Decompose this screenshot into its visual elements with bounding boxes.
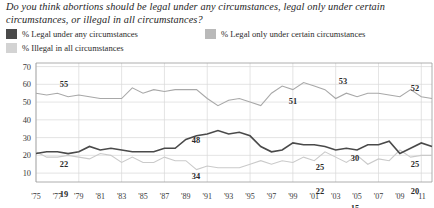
chart-card: Do you think abortions should be legal u… [0,0,434,208]
data-point-label: 55 [60,80,68,89]
chart-gridlines [36,63,432,182]
x-axis-tick-label: '97 [267,192,276,201]
data-point-label: 53 [339,77,347,86]
legend-item-illegal-all: % Illegal in all circumstances [6,43,124,53]
data-point-label: 25 [411,160,419,169]
x-axis-tick-label: '85 [138,192,147,201]
y-axis-tick-label: 60 [23,80,31,89]
data-point-label: 15 [351,204,359,208]
x-axis-tick-label: '87 [160,192,169,201]
x-axis-tick-label: '03 [331,192,340,201]
y-axis-tick-label: 70 [23,63,31,72]
legend-item-legal-certain: % Legal only under certain circumstances [205,29,365,39]
chart-plot-area: 10203040506070 '75'77'79'81'83'85'87'89'… [0,57,434,208]
legend-label-legal-certain: % Legal only under certain circumstances [221,29,365,39]
y-axis-tick-label: 40 [23,116,31,125]
legend-label-illegal-all: % Illegal in all circumstances [22,43,124,53]
data-point-label: 20 [411,187,419,196]
y-axis-tick-labels: 10203040506070 [23,63,31,179]
data-point-label: 22 [60,160,68,169]
data-point-label: 30 [351,154,359,163]
data-point-label: 19 [60,190,68,199]
chart-series-lines [36,83,432,170]
x-axis-tick-label: '83 [117,192,126,201]
legend-item-legal-any: % Legal under any circumstances [6,29,138,39]
y-axis-tick-label: 20 [23,151,31,160]
data-point-label: 22 [316,187,324,196]
data-point-label: 25 [316,163,324,172]
legend-label-legal-any: % Legal under any circumstances [22,29,138,39]
legend-swatch-icon-legal-any [6,29,17,39]
x-axis-tick-label: '95 [245,192,254,201]
x-axis-tick-label: '05 [352,192,361,201]
y-axis-tick-label: 10 [23,169,31,178]
x-axis-tick-label: '81 [95,192,104,201]
x-axis-tick-label: '09 [395,192,404,201]
y-axis-tick-label: 30 [23,134,31,143]
x-axis-tick-label: '89 [181,192,190,201]
series-line-legal-any [36,130,432,153]
chart-question-title: Do you think abortions should be legal u… [6,1,426,26]
x-axis-tick-label: '07 [374,192,383,201]
legend-swatch-icon-illegal-all [6,43,17,53]
chart-data-labels: 552219483413515325223015522520 [60,77,419,208]
line-chart-svg: 10203040506070 '75'77'79'81'83'85'87'89'… [0,57,434,208]
data-point-label: 34 [192,172,201,181]
x-axis-tick-label: '93 [224,192,233,201]
legend-swatch-icon-legal-certain [205,29,216,39]
data-point-label: 52 [411,84,419,93]
y-axis-tick-label: 50 [23,98,31,107]
x-axis-tick-label: '99 [288,192,297,201]
series-line-illegal-all [36,150,432,170]
data-point-label: 51 [289,97,297,106]
title-line-1: Do you think abortions should be legal u… [6,1,325,12]
x-axis-tick-label: '91 [203,192,212,201]
data-point-label: 48 [192,136,200,145]
x-axis-tick-label: '79 [74,192,83,201]
x-axis-tick-labels: '75'77'79'81'83'85'87'89'91'93'95'97'99'… [31,192,426,201]
x-axis-tick-label: '75 [31,192,40,201]
